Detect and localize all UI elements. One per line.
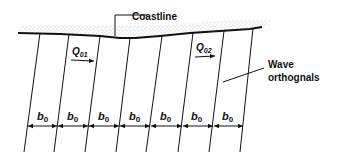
wave-orthogonals-label-line2: orthognals bbox=[268, 72, 320, 83]
orthogonal-6 bbox=[178, 33, 193, 152]
b0-label-6: b0 bbox=[191, 110, 203, 124]
b0-label-4: b0 bbox=[129, 110, 141, 124]
coastline-label: Coastline bbox=[132, 11, 177, 22]
b0-label-2: b0 bbox=[67, 110, 79, 124]
q02-arrow bbox=[195, 56, 215, 57]
wave-orthogonals-label-line1: Wave bbox=[268, 59, 294, 70]
spacing-labels: b0 b0 b0 b0 b0 b0 b0 bbox=[37, 110, 234, 124]
orthogonal-4 bbox=[116, 38, 130, 152]
q02-label: Q02 bbox=[196, 42, 212, 54]
b0-label-1: b0 bbox=[37, 110, 49, 124]
b0-label-3: b0 bbox=[98, 110, 110, 124]
coastline-diagram: Coastline Q01 Q02 Wave orthognals b0 b0 … bbox=[0, 0, 341, 164]
q01-arrow bbox=[71, 60, 94, 61]
q01-label: Q01 bbox=[72, 46, 88, 58]
b0-label-5: b0 bbox=[160, 110, 172, 124]
orthogonal-2 bbox=[54, 34, 69, 152]
b0-label-7: b0 bbox=[222, 110, 234, 124]
wave-orthogonals bbox=[24, 28, 253, 152]
wave-orthogonals-leader bbox=[223, 68, 264, 82]
orthogonal-1 bbox=[24, 33, 40, 152]
orthogonal-8 bbox=[240, 28, 253, 152]
orthogonal-5 bbox=[146, 36, 162, 152]
